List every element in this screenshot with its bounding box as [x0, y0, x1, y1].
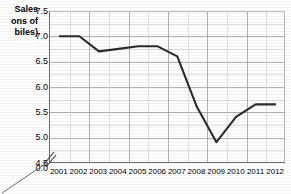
sales-line-series: [50, 11, 285, 162]
y-axis-tick-5-5: 5.5: [22, 108, 48, 117]
y-axis-tick-7-5: 7.5: [22, 7, 48, 16]
y-axis-tick-6-0: 6.0: [22, 83, 48, 92]
plot-area: [49, 11, 285, 163]
chart-root: Sales ons of biles) 7.57.06.56.05.55.04.…: [0, 0, 291, 194]
x-axis-tick-labels: 2001200220032004200520062007200820092010…: [0, 167, 291, 181]
sales-line: [60, 36, 275, 142]
y-axis-tick-labels: 7.57.06.56.05.55.04.50.0: [14, 0, 48, 194]
y-axis-tick-6-5: 6.5: [22, 57, 48, 66]
x-axis-tick-2012: 2012: [263, 167, 287, 176]
y-axis-tick-5-0: 5.0: [22, 133, 48, 142]
y-axis-tick-7-0: 7.0: [22, 32, 48, 41]
